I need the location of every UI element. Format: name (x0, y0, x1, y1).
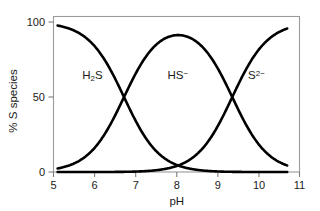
x-tick-label-7: 7 (133, 179, 139, 191)
x-tick-label-11: 11 (294, 179, 305, 191)
figure-container: 0 50 100 % S species 5 6 7 8 9 10 11 pH (0, 0, 320, 211)
y-tick-label-50: 50 (33, 91, 45, 103)
chart-background (0, 0, 320, 211)
x-tick-label-10: 10 (253, 179, 265, 191)
y-axis-title: % S species (7, 69, 19, 133)
x-tick-label-5: 5 (50, 179, 56, 191)
y-tick-label-100: 100 (27, 16, 45, 28)
x-tick-label-6: 6 (92, 179, 98, 191)
x-tick-label-9: 9 (215, 179, 221, 191)
x-axis-title: pH (169, 195, 184, 207)
x-tick-label-8: 8 (174, 179, 180, 191)
y-tick-label-0: 0 (39, 166, 45, 178)
speciation-chart: 0 50 100 % S species 5 6 7 8 9 10 11 pH (0, 0, 320, 211)
